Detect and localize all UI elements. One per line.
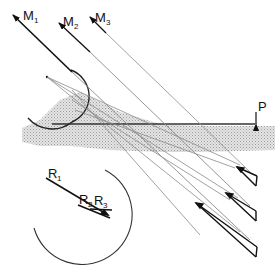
optics-diagram: M 1 M 2 M 3 P R 1 R 2 R 3 — [0, 0, 280, 265]
svg-text:R: R — [79, 192, 88, 207]
reflected-rays — [47, 77, 240, 235]
label-M2: M 2 — [63, 14, 79, 31]
svg-text:M: M — [95, 10, 106, 25]
triangle-3 — [196, 203, 257, 257]
shaded-surface-layer — [22, 92, 275, 152]
label-M1: M 1 — [23, 8, 39, 25]
label-M3: M 3 — [95, 10, 111, 27]
label-R2: R 2 — [79, 192, 93, 209]
svg-text:R: R — [48, 166, 57, 181]
label-R1: R 1 — [48, 166, 62, 183]
svg-text:3: 3 — [103, 201, 108, 210]
label-R3: R 3 — [94, 193, 108, 210]
svg-text:M: M — [23, 8, 34, 23]
triangle-1 — [237, 167, 257, 186]
svg-text:2: 2 — [74, 22, 79, 31]
svg-text:R: R — [94, 193, 103, 208]
svg-text:1: 1 — [34, 16, 39, 25]
vector-circle-arc — [34, 170, 132, 264]
svg-text:1: 1 — [57, 174, 62, 183]
svg-text:3: 3 — [106, 18, 111, 27]
reflected-ray-triangles — [196, 167, 257, 257]
label-P: P — [258, 99, 267, 114]
svg-text:M: M — [63, 14, 74, 29]
diagram-canvas: M 1 M 2 M 3 P R 1 R 2 R 3 — [0, 0, 280, 265]
svg-text:2: 2 — [88, 200, 93, 209]
